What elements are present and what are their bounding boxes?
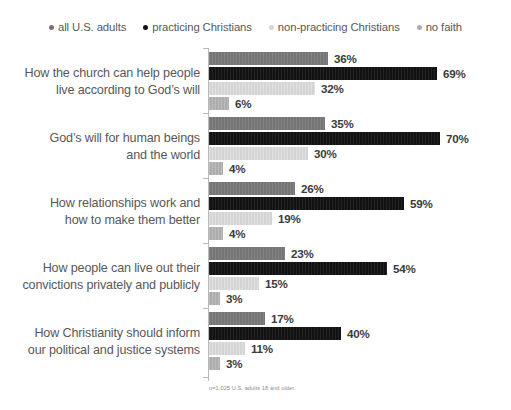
bar-row-practicing-christians: 40%	[209, 327, 370, 340]
category-label: How Christianity should inform our polit…	[0, 312, 200, 371]
bar-non-practicing-christians[interactable]	[209, 147, 308, 160]
category-label-line: how to make them better	[65, 212, 200, 229]
bar-no-faith[interactable]	[209, 97, 229, 110]
bar-non-practicing-christians[interactable]	[209, 342, 245, 355]
bar-practicing-christians[interactable]	[209, 262, 387, 275]
axis-tick	[203, 377, 209, 378]
bar-value-practicing-christians: 54%	[393, 262, 416, 275]
bar-row-no-faith: 3%	[209, 357, 242, 370]
legend-dot-non-practicing-christians	[269, 25, 274, 30]
category-label-line: How the church can help people	[25, 65, 200, 82]
bar-value-no-faith: 3%	[226, 292, 242, 305]
category-label: How people can live out their conviction…	[0, 247, 200, 306]
bar-value-no-faith: 4%	[229, 227, 245, 240]
legend-item-all-us-adults: all U.S. adults	[49, 22, 126, 33]
legend-item-practicing-christians: practicing Christians	[143, 22, 252, 33]
chart-footnote: n=1,025 U.S. adults 18 and older.	[209, 385, 296, 391]
bar-value-practicing-christians: 59%	[410, 197, 433, 210]
bar-row-all-us-adults: 23%	[209, 247, 314, 260]
bar-all-us-adults[interactable]	[209, 247, 285, 260]
axis-tick	[203, 243, 209, 244]
bar-value-no-faith: 4%	[229, 162, 245, 175]
bar-practicing-christians[interactable]	[209, 132, 440, 145]
bar-row-practicing-christians: 69%	[209, 67, 466, 80]
bar-group-bars: 35% 70% 30% 4%	[209, 117, 511, 176]
legend-dot-all-us-adults	[49, 25, 54, 30]
legend-dot-practicing-christians	[143, 25, 148, 30]
bar-row-non-practicing-christians: 32%	[209, 82, 344, 95]
bar-value-all-us-adults: 26%	[301, 182, 324, 195]
chart-legend: all U.S. adults practicing Christians no…	[0, 18, 511, 38]
bar-value-practicing-christians: 69%	[443, 67, 466, 80]
category-label-line: our political and justice systems	[28, 342, 200, 359]
bar-value-practicing-christians: 70%	[446, 132, 469, 145]
bar-value-non-practicing-christians: 15%	[265, 277, 288, 290]
bar-chart-plot-area: How the church can help people live acco…	[0, 44, 511, 384]
bar-group-bars: 36% 69% 32% 6%	[209, 52, 511, 111]
category-label-line: How people can live out their	[43, 260, 200, 277]
bar-all-us-adults[interactable]	[209, 312, 265, 325]
bar-value-all-us-adults: 23%	[291, 247, 314, 260]
category-label: How the church can help people live acco…	[0, 52, 200, 111]
axis-tick	[203, 178, 209, 179]
bar-group: How people can live out their conviction…	[0, 247, 511, 306]
category-label-line: How Christianity should inform	[34, 325, 200, 342]
bar-no-faith[interactable]	[209, 292, 220, 305]
bar-practicing-christians[interactable]	[209, 67, 437, 80]
bar-row-non-practicing-christians: 11%	[209, 342, 273, 355]
bar-group: How relationships work and how to make t…	[0, 182, 511, 241]
category-label: How relationships work and how to make t…	[0, 182, 200, 241]
bar-all-us-adults[interactable]	[209, 117, 325, 130]
bar-non-practicing-christians[interactable]	[209, 277, 259, 290]
legend-label-practicing-christians: practicing Christians	[152, 22, 252, 33]
bar-value-non-practicing-christians: 32%	[321, 82, 344, 95]
bar-row-no-faith: 4%	[209, 227, 245, 240]
bar-group-bars: 17% 40% 11% 3%	[209, 312, 511, 371]
bar-group-bars: 26% 59% 19% 4%	[209, 182, 511, 241]
category-label-line: How relationships work and	[50, 195, 200, 212]
bar-value-all-us-adults: 17%	[271, 312, 294, 325]
category-label-line: convictions privately and publicly	[22, 277, 200, 294]
bar-row-no-faith: 6%	[209, 97, 251, 110]
bar-group-bars: 23% 54% 15% 3%	[209, 247, 511, 306]
legend-item-non-practicing-christians: non-practicing Christians	[269, 22, 400, 33]
bar-practicing-christians[interactable]	[209, 327, 341, 340]
bar-value-all-us-adults: 35%	[331, 117, 354, 130]
bar-non-practicing-christians[interactable]	[209, 82, 315, 95]
bar-no-faith[interactable]	[209, 162, 223, 175]
bar-group: God’s will for human beings and the worl…	[0, 117, 511, 176]
bar-all-us-adults[interactable]	[209, 52, 328, 65]
bar-row-practicing-christians: 70%	[209, 132, 469, 145]
axis-tick	[203, 308, 209, 309]
bar-row-non-practicing-christians: 19%	[209, 212, 301, 225]
bar-all-us-adults[interactable]	[209, 182, 295, 195]
axis-tick	[203, 48, 209, 49]
bar-value-non-practicing-christians: 30%	[314, 147, 337, 160]
bar-value-non-practicing-christians: 11%	[251, 342, 273, 355]
bar-non-practicing-christians[interactable]	[209, 212, 272, 225]
category-label-line: God’s will for human beings	[50, 130, 200, 147]
bar-row-non-practicing-christians: 30%	[209, 147, 337, 160]
bar-value-no-faith: 3%	[226, 357, 242, 370]
bar-row-practicing-christians: 59%	[209, 197, 433, 210]
bar-value-practicing-christians: 40%	[347, 327, 370, 340]
bar-row-practicing-christians: 54%	[209, 262, 416, 275]
bar-value-non-practicing-christians: 19%	[278, 212, 301, 225]
legend-dot-no-faith	[417, 25, 422, 30]
bar-row-no-faith: 4%	[209, 162, 245, 175]
bar-practicing-christians[interactable]	[209, 197, 404, 210]
bar-no-faith[interactable]	[209, 227, 223, 240]
bar-row-no-faith: 3%	[209, 292, 242, 305]
legend-item-no-faith: no faith	[417, 22, 462, 33]
axis-tick	[203, 113, 209, 114]
category-label-line: live according to God’s will	[56, 82, 200, 99]
bar-row-all-us-adults: 36%	[209, 52, 357, 65]
category-label-line: and the world	[126, 147, 200, 164]
bar-no-faith[interactable]	[209, 357, 220, 370]
bar-row-all-us-adults: 26%	[209, 182, 324, 195]
bar-row-non-practicing-christians: 15%	[209, 277, 288, 290]
legend-label-all-us-adults: all U.S. adults	[58, 22, 126, 33]
bar-value-all-us-adults: 36%	[334, 52, 357, 65]
bar-value-no-faith: 6%	[235, 97, 251, 110]
bar-row-all-us-adults: 17%	[209, 312, 294, 325]
